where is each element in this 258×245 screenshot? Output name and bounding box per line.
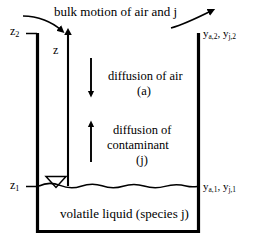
z-axis-label: z [53, 44, 58, 57]
diffusion-air-label-line2: (a) [137, 85, 151, 98]
diffusion-contaminant-label-line3: (j) [136, 154, 148, 167]
z2-label-subscript: 2 [15, 30, 19, 39]
y-j1-subscript: j,1 [228, 185, 236, 194]
z1-label-subscript: 1 [15, 184, 19, 193]
liquid-surface-wavy-line [39, 183, 198, 187]
z1-label: z1 [10, 179, 19, 193]
stefan-tube-diagram: bulk motion of air and j z2 z1 z ya,2, y… [0, 0, 258, 245]
mole-fraction-top-label: ya,2, yj,2 [203, 28, 236, 40]
diagram-title-bulk-motion: bulk motion of air and j [54, 5, 177, 19]
y-top-separator: , y [217, 27, 228, 39]
y-j2-subscript: j,2 [228, 32, 236, 41]
y-bottom-separator: , y [217, 180, 228, 192]
volatile-liquid-caption: volatile liquid (species j) [60, 207, 189, 221]
z2-label: z2 [10, 25, 19, 39]
mole-fraction-bottom-label: ya,1, yj,1 [203, 181, 236, 193]
diffusion-contaminant-label-line1: diffusion of [113, 124, 171, 137]
diffusion-air-label-line1: diffusion of air [108, 70, 183, 83]
diffusion-contaminant-label-line2: contaminant [107, 139, 169, 152]
